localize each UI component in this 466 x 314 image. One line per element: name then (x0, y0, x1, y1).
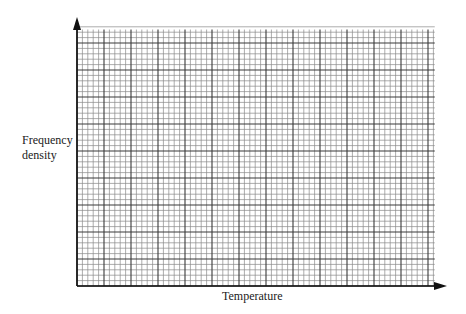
y-axis-label-line-1: Frequency (22, 133, 73, 148)
x-axis-arrow-icon (434, 282, 447, 290)
axes (73, 17, 447, 290)
y-axis-arrow-icon (73, 17, 81, 30)
grid-major-lines (77, 30, 435, 287)
y-axis-label-line-2: density (22, 148, 73, 163)
x-axis-label: Temperature (222, 289, 282, 303)
graph-paper-chart: Frequency density Temperature (0, 0, 466, 314)
y-axis-label: Frequency density (22, 133, 73, 163)
